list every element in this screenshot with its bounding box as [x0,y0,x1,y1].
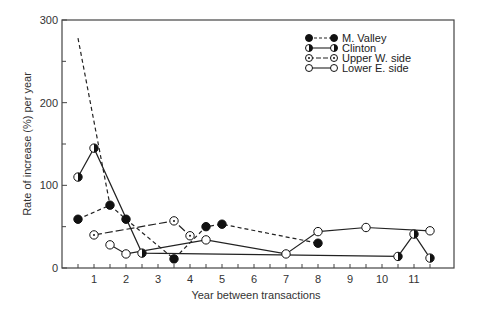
dotted-circle-marker [331,55,338,62]
x-tick-label: 3 [155,273,161,285]
half-filled-circle-marker [331,45,338,52]
open-circle-marker [106,241,114,249]
y-tick-label: 300 [40,14,58,26]
x-axis: 1234567891011 [78,264,430,285]
x-tick-label: 1 [91,273,97,285]
half-filled-circle-marker [410,230,418,238]
x-tick-label: 6 [251,273,257,285]
series-line-m-valley [78,205,318,259]
y-axis-label: Rate of increase (%) per year [21,72,33,216]
filled-circle-marker [314,239,322,247]
x-tick-label: 4 [187,273,193,285]
legend: M. ValleyClintonUpper W. sideLower E. si… [306,32,412,74]
filled-circle-marker [122,215,130,223]
filled-circle-marker [170,255,178,263]
dotted-circle-marker [170,217,178,225]
x-tick-label: 7 [283,273,289,285]
open-circle-marker [426,227,434,235]
half-filled-circle-marker [394,252,402,260]
series-lines [78,148,430,259]
dotted-circle-marker [90,231,98,239]
y-tick-label: 200 [40,97,58,109]
x-axis-label: Year between transactions [191,289,321,301]
x-tick-label: 8 [315,273,321,285]
series-line-clinton [78,148,430,258]
x-tick-label: 11 [408,273,419,285]
open-circle-marker [122,250,130,258]
series-line-lower-e-side [110,227,430,253]
open-circle-marker [282,250,290,258]
series-markers [74,144,434,263]
filled-circle-marker [218,220,226,228]
y-axis: 0100200300 [40,14,67,274]
annotation-lines [78,38,110,205]
filled-circle-marker [306,35,313,42]
open-circle-marker [202,236,210,244]
open-circle-marker [331,65,338,72]
half-filled-circle-marker [306,45,313,52]
half-filled-circle-marker [426,254,434,262]
y-tick-label: 100 [40,179,58,191]
filled-circle-marker [202,222,210,230]
x-tick-label: 2 [123,273,129,285]
x-tick-label: 5 [219,273,225,285]
x-tick-label: 9 [347,273,353,285]
open-circle-marker [362,223,370,231]
filled-circle-marker [74,215,82,223]
filled-circle-marker [106,201,114,209]
legend-item: Lower E. side [306,62,409,74]
dotted-circle-marker [306,55,313,62]
dotted-circle-marker [186,232,194,240]
open-circle-marker [314,227,322,235]
y-tick-label: 0 [52,262,58,274]
filled-circle-marker [331,35,338,42]
half-filled-circle-marker [74,173,82,181]
half-filled-circle-marker [90,144,98,152]
x-tick-label: 10 [376,273,388,285]
half-filled-circle-marker [138,249,146,257]
line-chart: 0100200300 1234567891011 Year between tr… [0,0,477,313]
open-circle-marker [306,65,313,72]
legend-label: Lower E. side [342,62,409,74]
annotation-line [78,38,110,205]
